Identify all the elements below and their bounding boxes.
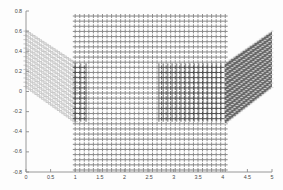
x-tick-label: 3.5 <box>188 174 208 180</box>
y-tick-label: -0.6 <box>0 148 22 154</box>
x-tick-label: 5 <box>262 174 282 180</box>
x-tick-label: 4 <box>213 174 233 180</box>
y-tick-label: -0.2 <box>0 108 22 114</box>
x-tick-label: 1.5 <box>90 174 110 180</box>
x-tick-label: 0.5 <box>41 174 61 180</box>
right-fan-region <box>224 30 274 124</box>
x-tick-label: 1 <box>65 174 85 180</box>
y-tick-label: -0.4 <box>0 128 22 134</box>
x-tick-label: 4.5 <box>237 174 257 180</box>
x-tick-label: 2.5 <box>139 174 159 180</box>
plot-canvas <box>0 0 283 190</box>
x-tick-label: 3 <box>164 174 184 180</box>
y-tick-label: 0.2 <box>0 68 22 74</box>
left-fan-region <box>23 30 77 123</box>
y-tick-label: 0.8 <box>0 8 22 14</box>
x-tick-label: 0 <box>16 174 36 180</box>
quiver-plot-figure: 0.80.60.40.20-0.2-0.4-0.6-0.8 00.511.522… <box>0 0 283 190</box>
y-tick-label: 0 <box>0 88 22 94</box>
x-tick-label: 2 <box>114 174 134 180</box>
y-tick-label: 0.6 <box>0 28 22 34</box>
center-grid-region <box>73 14 228 172</box>
y-tick-label: 0.4 <box>0 48 22 54</box>
